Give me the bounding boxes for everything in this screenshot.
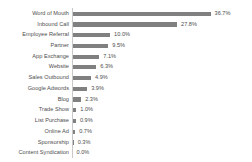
bar [73,44,109,48]
bar [73,130,76,134]
bar [73,87,88,91]
cropped-text-remnant: · · · [0,0,9,2]
category-label: Blog [0,95,69,105]
bar [73,65,97,69]
bar-row: Google Adwords3.9% [0,84,252,95]
bar-row: Sponsorship0.3% [0,137,252,148]
plot-area: Word of Mouth36.7%Inbound Call27.8%Emplo… [0,7,252,159]
bar-row: Content Syndication0.0% [0,148,252,159]
bar [73,97,82,101]
bar [73,119,76,123]
bar [73,140,74,144]
category-label: List Purchase [0,116,69,126]
category-label: Partner [0,41,69,51]
value-label: 27.8% [181,20,197,30]
bar-row: Trade Show1.0% [0,105,252,116]
category-label: Word of Mouth [0,9,69,19]
category-label: App Exchange [0,52,69,62]
category-label: Website [0,62,69,72]
value-label: 9.5% [112,41,125,51]
value-label: 0.3% [78,138,91,148]
value-label: 0.7% [79,127,92,137]
bar [73,55,100,59]
value-label: 0.9% [80,116,93,126]
category-label: Online Ad [0,127,69,137]
bar-row: App Exchange7.1% [0,51,252,62]
value-label: 10.0% [114,30,130,40]
category-label: Trade Show [0,105,69,115]
bar-row: Inbound Call27.8% [0,19,252,30]
value-label: 0.0% [77,148,90,158]
bar-row: Blog2.3% [0,94,252,105]
category-label: Sales Outbound [0,73,69,83]
category-label: Content Syndication [0,148,69,158]
bar-row: Online Ad0.7% [0,126,252,137]
bar-row: Website6.3% [0,62,252,73]
value-label: 2.3% [85,95,98,105]
value-label: 1.0% [80,105,93,115]
value-label: 4.9% [95,73,108,83]
value-label: 3.9% [91,84,104,94]
bar-row: Sales Outbound4.9% [0,73,252,84]
bar [73,76,91,80]
bar-row: Word of Mouth36.7% [0,9,252,20]
category-label: Inbound Call [0,20,69,30]
cropped-top-edge-artifact: · · · [0,0,252,3]
bar-row: Employee Referral10.0% [0,30,252,41]
bar [73,108,77,112]
bar-chart: · · · Word of Mouth36.7%Inbound Call27.8… [0,0,252,162]
value-label: 7.1% [103,52,116,62]
value-label: 36.7% [215,9,231,19]
bar [73,22,178,26]
bar [73,12,211,16]
category-label: Employee Referral [0,30,69,40]
category-label: Sponsorship [0,138,69,148]
bar-row: List Purchase0.9% [0,116,252,127]
bar-row: Partner9.5% [0,41,252,52]
value-label: 6.3% [100,62,113,72]
bar [73,33,111,37]
category-label: Google Adwords [0,84,69,94]
